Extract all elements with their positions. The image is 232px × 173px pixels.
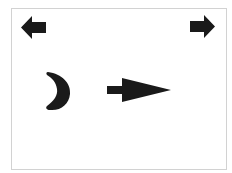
- arrow-right-icon: [189, 15, 215, 38]
- crescent-icon: [44, 70, 72, 112]
- arrow-left-icon: [21, 16, 47, 39]
- long-arrow-right-icon: [106, 77, 172, 103]
